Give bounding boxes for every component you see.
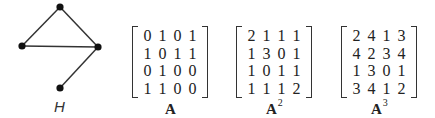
right-bracket bbox=[202, 26, 208, 98]
matrix-cell: 3 bbox=[364, 62, 379, 80]
matrix-cell: 2 bbox=[349, 27, 364, 45]
matrix-power: 3 bbox=[383, 97, 388, 108]
matrix-cell: 1 bbox=[170, 45, 185, 63]
left-bracket bbox=[236, 26, 242, 98]
matrix-cell: 1 bbox=[259, 27, 274, 45]
matrix-cell: 4 bbox=[364, 27, 379, 45]
matrix-cell: 2 bbox=[244, 27, 259, 45]
matrix-cell: 2 bbox=[364, 45, 379, 63]
matrix-cell: 1 bbox=[244, 45, 259, 63]
matrix-cell: 1 bbox=[274, 62, 289, 80]
matrix-a-cubed: 2 4 1 3 4 2 3 4 1 3 0 1 3 4 1 2 bbox=[341, 26, 417, 98]
matrix-cell: 0 bbox=[140, 62, 155, 80]
matrix-cell: 1 bbox=[140, 45, 155, 63]
matrix-cell: 2 bbox=[394, 80, 409, 98]
node-left bbox=[18, 42, 25, 49]
right-bracket bbox=[411, 26, 417, 98]
matrix-label-a-cubed: A3 bbox=[371, 99, 388, 118]
edge-top-left bbox=[22, 7, 60, 46]
matrix-cell: 1 bbox=[379, 80, 394, 98]
matrix-cell: 3 bbox=[259, 45, 274, 63]
matrix-cell: 1 bbox=[155, 62, 170, 80]
matrix-cell: 1 bbox=[274, 80, 289, 98]
matrix-cell: 1 bbox=[289, 45, 304, 63]
matrix-cell: 0 bbox=[185, 80, 200, 98]
edge-left-right bbox=[22, 46, 98, 47]
graph-label: H bbox=[54, 98, 65, 115]
matrix-cell: 1 bbox=[274, 27, 289, 45]
matrix-power: 2 bbox=[278, 97, 283, 108]
matrix-cell: 3 bbox=[394, 27, 409, 45]
matrix-cell: 2 bbox=[289, 80, 304, 98]
matrix-cell: 0 bbox=[170, 27, 185, 45]
edge-right-bottom bbox=[60, 47, 98, 88]
matrix-cell: 1 bbox=[155, 27, 170, 45]
matrix-cell: 3 bbox=[379, 45, 394, 63]
matrix-cell: 4 bbox=[394, 45, 409, 63]
right-bracket bbox=[306, 26, 312, 98]
matrix-cell: 1 bbox=[289, 27, 304, 45]
matrix-a: 0 1 0 1 1 0 1 1 0 1 0 0 1 1 0 0 bbox=[132, 26, 208, 98]
node-bottom bbox=[56, 84, 63, 91]
matrix-cell: 1 bbox=[379, 27, 394, 45]
matrix-label-a: A bbox=[165, 99, 177, 118]
edge-top-right bbox=[60, 7, 98, 47]
matrix-cell: 1 bbox=[244, 80, 259, 98]
left-bracket bbox=[132, 26, 138, 98]
matrix-label-a-squared: A2 bbox=[266, 99, 283, 118]
matrix-cell: 0 bbox=[170, 80, 185, 98]
matrix-cell: 4 bbox=[364, 80, 379, 98]
matrix-cell: 0 bbox=[155, 45, 170, 63]
matrix-cell: 1 bbox=[244, 62, 259, 80]
matrix-cell: 1 bbox=[140, 80, 155, 98]
matrix-cell: 1 bbox=[349, 62, 364, 80]
matrix-cell: 1 bbox=[155, 80, 170, 98]
matrix-cell: 1 bbox=[185, 45, 200, 63]
matrix-cell: 4 bbox=[349, 45, 364, 63]
node-right bbox=[94, 43, 101, 50]
matrix-label-text: A bbox=[266, 101, 277, 117]
matrix-cell: 0 bbox=[274, 45, 289, 63]
matrix-cell: 0 bbox=[170, 62, 185, 80]
left-bracket bbox=[341, 26, 347, 98]
matrix-label-text: A bbox=[165, 101, 176, 117]
matrix-cell: 1 bbox=[394, 62, 409, 80]
matrix-cell: 1 bbox=[185, 27, 200, 45]
node-top bbox=[56, 3, 63, 10]
matrix-label-text: A bbox=[371, 101, 382, 117]
matrix-cell: 1 bbox=[289, 62, 304, 80]
matrix-cell: 3 bbox=[349, 80, 364, 98]
matrix-a-squared: 2 1 1 1 1 3 0 1 1 0 1 1 1 1 1 2 bbox=[236, 26, 312, 98]
matrix-cell: 0 bbox=[140, 27, 155, 45]
matrix-cell: 0 bbox=[379, 62, 394, 80]
matrix-cell: 0 bbox=[259, 62, 274, 80]
matrix-cell: 1 bbox=[259, 80, 274, 98]
matrix-cell: 0 bbox=[185, 62, 200, 80]
